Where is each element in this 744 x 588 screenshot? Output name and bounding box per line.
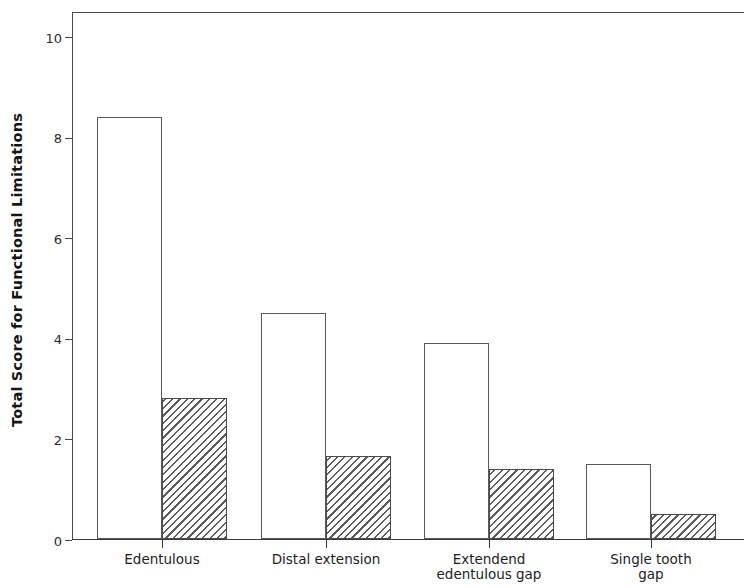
x-tick-label: Single tooth gap: [605, 552, 698, 582]
bar: [162, 398, 227, 539]
bar-chart-figure: Total Score for Functional Limitations 0…: [0, 0, 744, 588]
bar: [326, 456, 391, 539]
y-tick-mark: 10: [65, 37, 72, 38]
bar: [261, 313, 326, 539]
x-axis-spine: [72, 539, 744, 540]
y-axis-title-container: Total Score for Functional Limitations: [0, 0, 34, 540]
bar: [651, 514, 716, 539]
y-tick-mark: 6: [65, 238, 72, 239]
y-tick-mark: 0: [65, 540, 72, 541]
x-tick-label: Extendend edentulous gap: [437, 552, 542, 582]
y-tick-label: 0: [54, 533, 62, 548]
y-tick-mark: 2: [65, 439, 72, 440]
x-tick-mark: [162, 540, 163, 548]
y-tick-label: 4: [54, 332, 62, 347]
bar: [489, 469, 554, 539]
x-tick-mark: [326, 540, 327, 548]
plot-area: 0246810 EdentulousDistal extensionExtend…: [72, 12, 744, 540]
y-tick-label: 10: [45, 30, 62, 45]
x-tick-label: Edentulous: [124, 552, 199, 567]
bar: [424, 343, 489, 539]
bar: [586, 464, 651, 539]
x-tick-label: Distal extension: [272, 552, 381, 567]
y-tick-label: 8: [54, 131, 62, 146]
x-tick-mark: [489, 540, 490, 548]
y-tick-label: 6: [54, 231, 62, 246]
y-tick-mark: 4: [65, 339, 72, 340]
y-axis-title: Total Score for Functional Limitations: [9, 113, 25, 427]
y-tick-label: 2: [54, 432, 62, 447]
y-tick-mark: 8: [65, 138, 72, 139]
plot-top-rule: [72, 12, 744, 13]
y-axis-spine: [72, 12, 73, 540]
x-tick-mark: [651, 540, 652, 548]
bar: [97, 117, 162, 539]
